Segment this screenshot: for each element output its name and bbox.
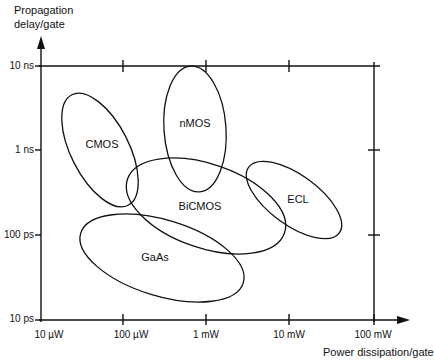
x-tick-1mw: 1 mW xyxy=(176,329,236,340)
region-label-ecl: ECL xyxy=(268,193,328,205)
region-cmos-ellipse xyxy=(46,82,154,219)
region-label-bicmos: BiCMOS xyxy=(170,200,230,212)
region-nmos-ellipse xyxy=(160,64,231,194)
y-tick-100ps: 100 ps xyxy=(0,229,34,240)
x-axis-label: Power dissipation/gate xyxy=(323,346,434,359)
region-label-cmos: CMOS xyxy=(72,138,132,150)
y-axis-label-line1: Propagation xyxy=(14,4,73,17)
y-tick-10ps: 10 ps xyxy=(0,313,34,324)
y-tick-1ns: 1 ns xyxy=(0,144,34,155)
chart-plot xyxy=(0,0,434,362)
x-tick-100mw: 100 mW xyxy=(343,329,403,340)
x-axis-arrow-icon xyxy=(397,316,410,324)
y-tick-10ns: 10 ns xyxy=(0,60,34,71)
region-label-gaas: GaAs xyxy=(125,251,185,263)
y-axis-label-line2: delay/gate xyxy=(14,18,65,31)
x-tick-10uw: 10 µW xyxy=(19,329,79,340)
x-tick-10mw: 10 mW xyxy=(259,329,319,340)
y-axis-arrow-icon xyxy=(37,36,45,49)
region-label-nmos: nMOS xyxy=(165,117,225,129)
x-tick-100uw: 100 µW xyxy=(101,329,161,340)
